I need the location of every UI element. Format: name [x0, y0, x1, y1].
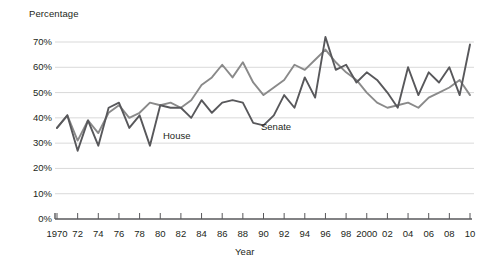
x-axis-tick-label: 02 [382, 228, 393, 239]
series-label-house: House [163, 130, 190, 141]
y-axis-tick-label: 60% [18, 61, 52, 72]
x-axis-tick-label: 10 [465, 228, 476, 239]
x-axis-tick-label: 90 [258, 228, 269, 239]
x-axis-tick-label: 84 [196, 228, 207, 239]
series-label-senate: Senate [261, 121, 291, 132]
x-axis-tick-label: 86 [217, 228, 228, 239]
y-axis-tick-label: 70% [18, 36, 52, 47]
x-axis-tick-label: 88 [238, 228, 249, 239]
y-axis-tick-label: 10% [18, 188, 52, 199]
y-axis-tick-label: 40% [18, 112, 52, 123]
x-axis-tick-label: 80 [155, 228, 166, 239]
x-axis-title: Year [235, 246, 255, 257]
x-axis-tick-label: 82 [176, 228, 187, 239]
x-axis-tick-label: 1970 [46, 228, 67, 239]
y-axis-tick-label: 50% [18, 87, 52, 98]
x-axis-tick-label: 92 [279, 228, 290, 239]
x-axis-tick-label: 72 [72, 228, 83, 239]
x-axis-tick-label: 74 [93, 228, 104, 239]
x-axis-tick-label: 98 [341, 228, 352, 239]
x-axis-tick-label: 76 [114, 228, 125, 239]
x-axis-tick-label: 78 [134, 228, 145, 239]
x-axis-tick-label: 96 [320, 228, 331, 239]
x-axis-tick-label: 94 [300, 228, 311, 239]
chart-container: Percentage Year 0%10%20%30%40%50%60%70% … [0, 0, 503, 272]
x-axis-tick-label: 08 [444, 228, 455, 239]
x-axis-tick-label: 06 [423, 228, 434, 239]
y-axis-tick-label: 30% [18, 137, 52, 148]
x-axis-tick-label: 2000 [356, 228, 377, 239]
series-lines [57, 37, 470, 151]
y-axis-title: Percentage [29, 8, 79, 19]
x-axis-tick-label: 04 [403, 228, 414, 239]
x-axis-ticks [57, 213, 470, 219]
y-axis-tick-label: 20% [18, 162, 52, 173]
y-axis-tick-label: 0% [18, 213, 52, 224]
gridlines [55, 42, 474, 194]
